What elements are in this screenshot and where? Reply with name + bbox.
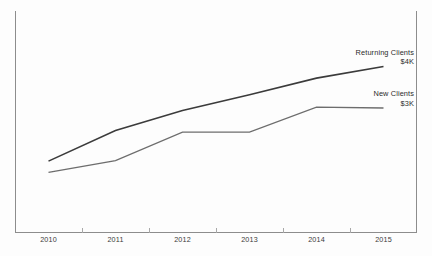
series-value-returning-clients: $4K	[356, 57, 414, 67]
series-name-returning-clients: Returning Clients	[356, 48, 414, 58]
series-value-new-clients: $3K	[373, 99, 414, 109]
series-end-label-returning-clients: Returning Clients $4K	[356, 48, 414, 67]
x-axis-tick-label-2012: 2012	[174, 235, 191, 244]
x-axis-tick-label-2014: 2014	[308, 235, 325, 244]
series-line-new-clients	[49, 107, 384, 172]
x-axis-tick-labels: 201020112012201320142015	[40, 235, 392, 244]
series-lines	[49, 67, 384, 173]
line-chart: 201020112012201320142015 Returning Clien…	[0, 0, 432, 256]
series-line-returning-clients	[49, 67, 384, 162]
x-axis-tick-label-2013: 2013	[241, 235, 258, 244]
series-end-label-new-clients: New Clients $3K	[373, 89, 414, 108]
series-name-new-clients: New Clients	[373, 89, 414, 99]
x-axis-tick-label-2015: 2015	[375, 235, 392, 244]
chart-canvas: 201020112012201320142015	[0, 0, 432, 256]
x-axis-tick-label-2010: 2010	[40, 235, 57, 244]
x-axis-tick-label-2011: 2011	[107, 235, 123, 244]
axes-group	[15, 11, 417, 233]
x-axis-ticks	[83, 228, 351, 233]
